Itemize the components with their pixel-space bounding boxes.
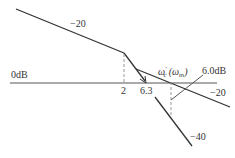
arrow-head-icon [140, 76, 146, 83]
asymptote-lower [155, 97, 192, 146]
asymptote-steep-segment [124, 53, 145, 81]
crossover-paren-omega: (ω [169, 66, 179, 78]
slope-label-right: −20 [210, 87, 226, 98]
bode-diagram: 0dB −20 2 6.3 −20 −40 ω′c(ωm) 6.0dB [0, 0, 235, 158]
freq-mark-6-3: 6.3 [140, 85, 153, 96]
gain-annotation: 6.0dB [202, 65, 227, 76]
crossover-label: ω′c(ωm) [158, 65, 188, 79]
crossover-paren-close: ) [183, 66, 188, 78]
slope-label-upper-left: −20 [70, 18, 86, 29]
crossover-sub: c [164, 71, 168, 79]
asymptote-upper-left [16, 9, 124, 53]
zero-db-label: 0dB [11, 69, 28, 80]
slope-label-lower: −40 [190, 131, 206, 142]
freq-mark-2: 2 [121, 85, 126, 96]
gain-leader-line [171, 75, 203, 100]
